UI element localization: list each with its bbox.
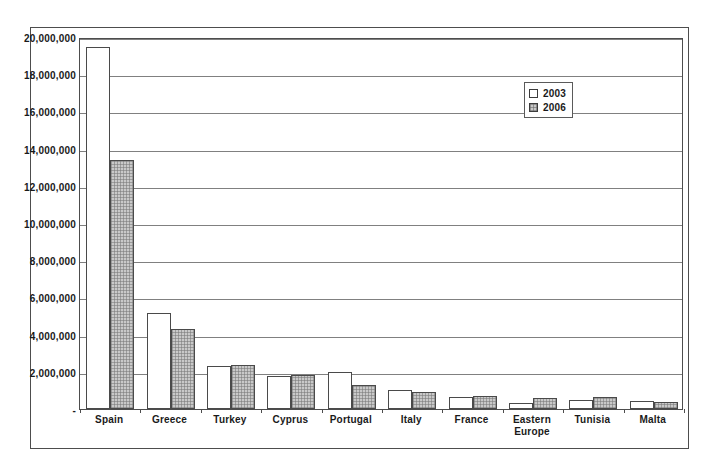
bar-2003-portugal (328, 372, 352, 409)
gridline (80, 76, 682, 77)
y-axis-tick-label: 8,000,000 (2, 256, 76, 267)
bar-2006-spain (110, 160, 134, 409)
bar-2003-tunisia (569, 400, 593, 409)
x-axis-tick (140, 409, 141, 413)
x-axis-tick (624, 409, 625, 413)
y-axis-tick-label: 10,000,000 (2, 219, 76, 230)
gridline (80, 113, 682, 114)
x-axis-label-line: Tunisia (562, 414, 622, 426)
bar-2006-portugal (352, 385, 376, 409)
x-axis-label-line: Portugal (321, 414, 381, 426)
gridline (80, 225, 682, 226)
bar-2003-italy (388, 390, 412, 409)
bar-2003-spain (86, 47, 110, 409)
bar-2003-france (449, 397, 473, 409)
bar-2003-turkey (207, 366, 231, 409)
gridline (80, 262, 682, 263)
bar-2003-cyprus (267, 376, 291, 409)
legend-label-2003: 2003 (543, 88, 566, 99)
bar-2006-turkey (231, 365, 255, 409)
x-axis-category-label: EasternEurope (502, 414, 562, 438)
x-axis-tick (261, 409, 262, 413)
y-axis-tick-label: 16,000,000 (2, 107, 76, 118)
bar-2006-tunisia (593, 397, 617, 409)
bar-2006-france (473, 396, 497, 409)
y-axis-tick-label: 12,000,000 (2, 181, 76, 192)
x-axis-category-label: Turkey (200, 414, 260, 426)
x-axis-tick (563, 409, 564, 413)
x-axis-label-line: Eastern (502, 414, 562, 426)
x-axis-category-label: France (441, 414, 501, 426)
gridline (80, 39, 682, 40)
x-axis-label-line: Cyprus (260, 414, 320, 426)
bar-2006-greece (171, 329, 195, 409)
x-axis-tick (382, 409, 383, 413)
legend-label-2006: 2006 (543, 102, 566, 113)
x-axis-tick (201, 409, 202, 413)
y-axis-tick-label: 18,000,000 (2, 70, 76, 81)
x-axis-category-label: Italy (381, 414, 441, 426)
legend-item-2003[interactable]: 2003 (529, 86, 566, 100)
x-axis-category-label: Malta (623, 414, 683, 426)
y-axis-tick-label: 6,000,000 (2, 293, 76, 304)
plot-area (79, 38, 683, 410)
x-axis-category-label: Spain (79, 414, 139, 426)
y-axis-tick-label: 14,000,000 (2, 144, 76, 155)
y-axis-tick-labels: 20,000,00018,000,00016,000,00014,000,000… (0, 0, 76, 471)
y-axis-tick-label: 4,000,000 (2, 330, 76, 341)
bar-2003-greece (147, 313, 171, 409)
y-axis-tick-label: 20,000,000 (2, 33, 76, 44)
y-axis-tick-label: - (2, 405, 76, 416)
legend-item-2006[interactable]: 2006 (529, 100, 566, 114)
x-axis-tick (503, 409, 504, 413)
x-axis-tick (442, 409, 443, 413)
x-axis-label-line: Turkey (200, 414, 260, 426)
x-axis-category-label: Tunisia (562, 414, 622, 426)
chart-legend: 2003 2006 (524, 82, 573, 118)
bar-2006-cyprus (291, 375, 315, 409)
y-axis-tick-label: 2,000,000 (2, 367, 76, 378)
bar-2003-malta (630, 401, 654, 409)
gridline (80, 299, 682, 300)
hatched-square-icon (529, 103, 538, 112)
gridline (80, 151, 682, 152)
x-axis-label-line: Italy (381, 414, 441, 426)
bar-2006-italy (412, 392, 436, 409)
x-axis-label-line: France (441, 414, 501, 426)
gridline (80, 188, 682, 189)
x-axis-category-labels: SpainGreeceTurkeyCyprusPortugalItalyFran… (79, 414, 683, 450)
x-axis-tick (684, 409, 685, 413)
x-axis-label-line: Greece (139, 414, 199, 426)
x-axis-tick (80, 409, 81, 413)
x-axis-category-label: Cyprus (260, 414, 320, 426)
x-axis-label-line: Europe (502, 426, 562, 438)
bar-2006-malta (654, 402, 678, 409)
x-axis-category-label: Greece (139, 414, 199, 426)
empty-square-icon (529, 89, 538, 98)
x-axis-tick (322, 409, 323, 413)
bar-2003-eastern-europe (509, 403, 533, 409)
x-axis-label-line: Spain (79, 414, 139, 426)
x-axis-label-line: Malta (623, 414, 683, 426)
x-axis-category-label: Portugal (321, 414, 381, 426)
bar-2006-eastern-europe (533, 398, 557, 409)
